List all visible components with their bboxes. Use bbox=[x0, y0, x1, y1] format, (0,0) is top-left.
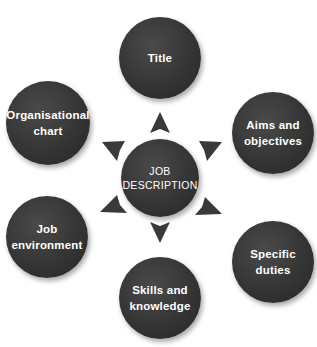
arrow-lower-left-icon bbox=[100, 195, 127, 213]
node-title: Title bbox=[119, 17, 201, 99]
node-label: Title bbox=[148, 50, 172, 66]
node-label-line2: duties bbox=[250, 262, 296, 278]
node-label-line1: Specific bbox=[250, 246, 296, 262]
node-organisational-chart: Organisational chart bbox=[6, 81, 90, 165]
node-skills-and-knowledge: Skills and knowledge bbox=[119, 257, 201, 339]
node-label-line1: Organisational bbox=[6, 107, 89, 123]
node-aims-and-objectives: Aims and objectives bbox=[232, 92, 314, 174]
node-label-line2: environment bbox=[11, 237, 82, 253]
node-label-line2: knowledge bbox=[129, 298, 190, 314]
node-label-line1: Skills and bbox=[129, 282, 190, 298]
node-label-line1: Aims and bbox=[244, 117, 302, 133]
center-label-line2: DESCRIPTION bbox=[122, 178, 197, 192]
node-specific-duties: Specific duties bbox=[232, 221, 314, 303]
node-label-line1: Job bbox=[11, 221, 82, 237]
arrow-upper-left-icon bbox=[102, 141, 125, 161]
node-label-line2: chart bbox=[6, 123, 89, 139]
node-job-environment: Job environment bbox=[6, 196, 88, 278]
arrow-upper-right-icon bbox=[199, 141, 222, 161]
center-label-line1: JOB bbox=[122, 164, 197, 178]
node-label-line2: objectives bbox=[244, 133, 302, 149]
center-node-job-description: JOB DESCRIPTION bbox=[121, 139, 199, 217]
arrow-lower-right-icon bbox=[195, 197, 222, 215]
arrow-up-icon bbox=[150, 112, 170, 133]
arrow-down-icon bbox=[150, 222, 170, 243]
